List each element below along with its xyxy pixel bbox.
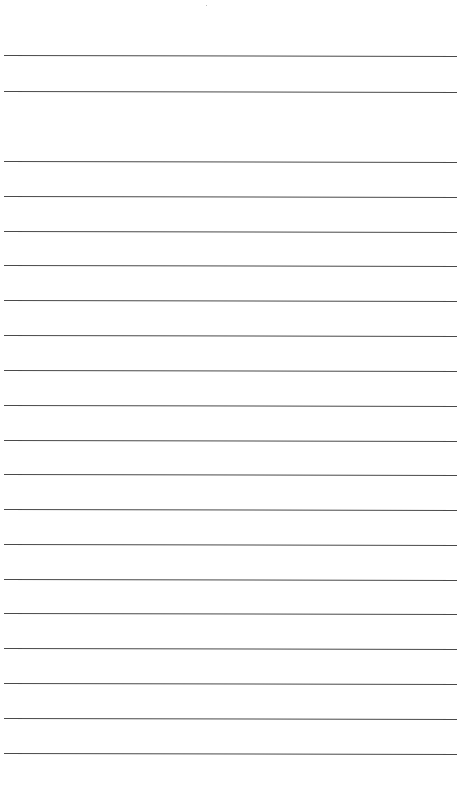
body-rule-9: [4, 440, 457, 442]
body-rule-16: [4, 683, 457, 685]
body-rule-17: [4, 718, 457, 720]
body-rule-15: [4, 648, 457, 650]
body-rule-7: [4, 370, 457, 372]
lined-page: [0, 0, 476, 806]
body-rule-1: [4, 161, 457, 163]
body-rule-8: [4, 405, 457, 407]
paper-speck: [206, 5, 207, 6]
body-rule-5: [4, 300, 457, 302]
body-rule-10: [4, 474, 457, 476]
body-rule-12: [4, 544, 457, 546]
body-rule-14: [4, 613, 457, 615]
body-rule-13: [4, 579, 457, 581]
body-rule-2: [4, 196, 457, 198]
header-rule-2: [4, 91, 457, 93]
body-rule-18: [4, 753, 457, 755]
header-rule-1: [4, 55, 457, 57]
body-rule-4: [4, 265, 457, 267]
body-rule-6: [4, 335, 457, 337]
body-rule-3: [4, 231, 457, 233]
body-rule-11: [4, 509, 457, 511]
